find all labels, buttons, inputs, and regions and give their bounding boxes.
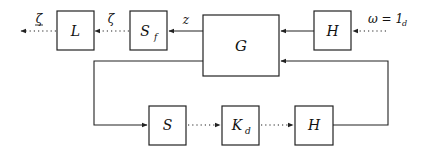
block-h-bottom: H [295, 106, 333, 145]
block-kd: K d [222, 106, 259, 145]
block-kd-subscript: d [245, 126, 251, 136]
block-s: S [149, 106, 186, 145]
block-h-top: H [314, 11, 351, 50]
block-l: L [57, 11, 94, 50]
block-l-label: L [70, 23, 80, 39]
block-h-bottom-label: H [307, 117, 321, 133]
block-h-top-label: H [325, 23, 339, 39]
block-g-label: G [235, 37, 247, 55]
block-g: G [203, 15, 279, 76]
signal-z-label: z [182, 13, 190, 27]
block-sf-label: S [140, 23, 150, 39]
signal-omega-label: ω = 1 [368, 12, 403, 26]
block-kd-label: K [231, 117, 244, 133]
signal-zeta-out-label: ζ [36, 12, 44, 26]
signal-zeta-label: ζ [108, 12, 116, 26]
block-sf: S f [130, 11, 167, 50]
block-s-label: S [163, 117, 173, 133]
signal-omega-subscript: d [402, 19, 407, 28]
block-diagram: L S f G H S K d H ζ ζ z ω = 1 d [0, 0, 427, 153]
